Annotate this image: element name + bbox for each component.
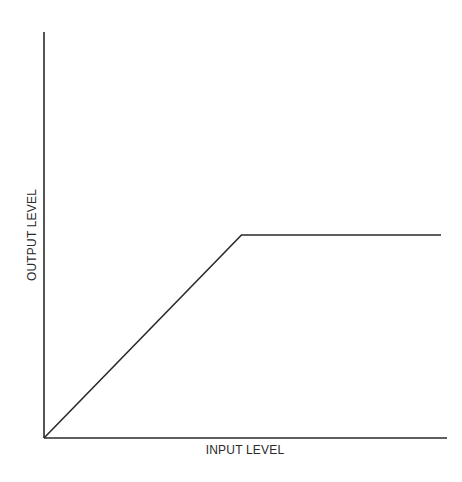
transfer-curve-chart bbox=[0, 0, 462, 482]
x-axis-label: INPUT LEVEL bbox=[0, 443, 462, 457]
transfer-curve-line bbox=[44, 235, 441, 438]
y-axis-label: OUTPUT LEVEL bbox=[25, 189, 39, 281]
